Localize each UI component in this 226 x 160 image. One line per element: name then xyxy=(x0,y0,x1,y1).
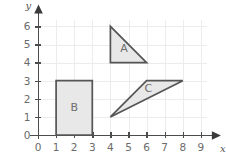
x-tick-label-2: 2 xyxy=(71,141,78,153)
shape-label-c: C xyxy=(145,82,153,95)
x-tick-label-6: 6 xyxy=(143,141,150,153)
x-tick-label-3: 3 xyxy=(89,141,96,153)
y-tick-label-5: 5 xyxy=(24,38,31,50)
x-tick-label-4: 4 xyxy=(107,141,114,153)
x-tick-label-8: 8 xyxy=(179,141,186,153)
y-axis-arrow-icon xyxy=(34,4,43,13)
y-axis-label: y xyxy=(25,0,32,11)
coordinate-plane-figure: 01234567890123456 ABC x y xyxy=(0,0,226,160)
x-axis-arrow-icon xyxy=(212,131,221,140)
y-tick-label-0: 0 xyxy=(24,129,31,141)
x-tick-label-0: 0 xyxy=(35,141,42,153)
shape-label-a: A xyxy=(120,42,128,55)
x-tick-label-7: 7 xyxy=(161,141,168,153)
y-tick-label-1: 1 xyxy=(24,111,31,123)
x-tick-label-9: 9 xyxy=(198,141,205,153)
y-tick-label-6: 6 xyxy=(24,20,31,32)
coordinate-plot: 01234567890123456 ABC x y xyxy=(0,0,226,160)
x-tick-label-5: 5 xyxy=(125,141,132,153)
shape-label-b: B xyxy=(70,101,78,114)
y-tick-label-2: 2 xyxy=(24,93,31,105)
y-tick-label-4: 4 xyxy=(24,56,31,68)
x-axis-label: x xyxy=(220,143,226,154)
y-tick-label-3: 3 xyxy=(24,75,31,87)
x-tick-label-1: 1 xyxy=(53,141,60,153)
